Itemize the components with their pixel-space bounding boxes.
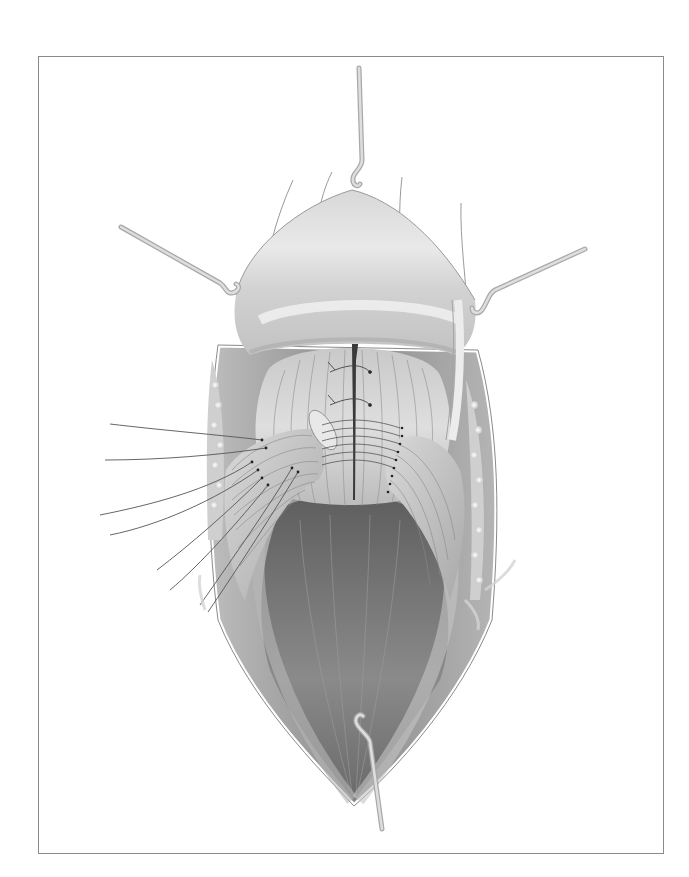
surgical-illustration xyxy=(0,0,689,877)
retractor-left xyxy=(121,227,239,293)
retractor-right xyxy=(472,249,585,313)
retracted-flap xyxy=(235,190,476,355)
retractor-top xyxy=(353,68,362,186)
lower-cavity xyxy=(261,496,448,800)
